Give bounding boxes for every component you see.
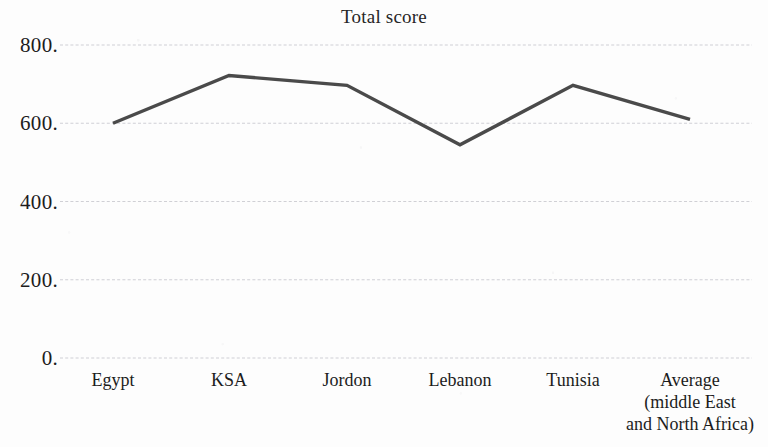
y-axis-tick-label: 200. (0, 267, 58, 292)
data-line (113, 76, 690, 145)
x-axis-tick-label: Egypt (53, 370, 173, 392)
y-axis-tick-label: 600. (0, 111, 58, 136)
y-axis-tick-label: 0. (0, 346, 58, 371)
y-axis-tick-label: 400. (0, 189, 58, 214)
x-axis-tick-label: Average (middle East and North Africa) (610, 370, 768, 436)
gridlines-group (60, 45, 752, 358)
x-axis-tick-label: KSA (169, 370, 289, 392)
y-axis-tick-label: 800. (0, 33, 58, 58)
x-axis-tick-label: Jordon (287, 370, 407, 392)
plot-area: 0.200.400.600.800. EgyptKSAJordonLebanon… (0, 0, 768, 447)
x-axis-tick-label: Lebanon (400, 370, 520, 392)
data-series-group (113, 76, 690, 145)
chart-figure: Total score 0.200.400.600.800. EgyptKSAJ… (0, 0, 768, 447)
